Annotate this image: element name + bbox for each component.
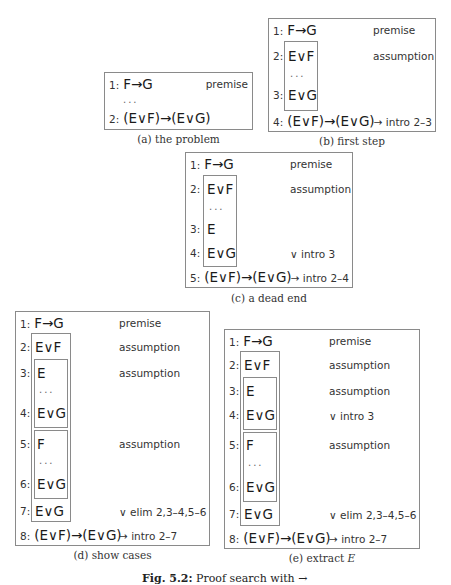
justification: premise xyxy=(290,156,332,172)
line-number: 3: xyxy=(273,89,283,101)
justification: assumption xyxy=(119,436,180,452)
proof-line: 2: xyxy=(190,181,200,197)
proof-line: 2: xyxy=(20,339,30,355)
line-number: 4: xyxy=(229,409,239,421)
line-number: 2: xyxy=(229,359,239,371)
proof-line: 6: xyxy=(229,479,239,495)
formula: E∨F xyxy=(288,48,314,64)
formula: F xyxy=(37,436,45,452)
panel-caption-c: (c) a dead end xyxy=(185,292,353,304)
proof-line: 2: (E∨F)→(E∨G) xyxy=(109,110,211,127)
justification: ∨ intro 3 xyxy=(329,408,374,424)
figure-caption: Fig. 5.2: Proof search with → xyxy=(142,572,307,585)
formula: E xyxy=(207,221,216,237)
justification: premise xyxy=(206,76,248,92)
proof-line: E∨G xyxy=(246,407,275,424)
ellipsis: ... xyxy=(39,385,55,395)
caption-prefix: (e) extract xyxy=(289,552,348,564)
proof-line: 7: xyxy=(20,503,30,519)
proof-line: E∨G xyxy=(244,506,273,523)
formula: F→G xyxy=(287,22,317,38)
formula: E∨F xyxy=(207,181,233,197)
formula: E xyxy=(246,383,255,399)
justification: assumption xyxy=(329,383,390,399)
formula: (E∨F)→(E∨G) xyxy=(123,110,210,126)
proof-panel-b: 1: F→G premise 2: E∨F assumption ... 3: … xyxy=(268,18,436,132)
ellipsis: ... xyxy=(290,69,306,79)
proof-panel-a: 1: F→G premise ... 2: (E∨F)→(E∨G) xyxy=(104,72,253,130)
ellipsis: ... xyxy=(248,458,264,468)
proof-line: E∨G xyxy=(37,405,66,422)
proof-line: 5: xyxy=(20,436,30,452)
justification: ∨ elim 2,3–4,5–6 xyxy=(329,507,416,523)
proof-line: E∨F xyxy=(35,339,61,356)
proof-line: 4: xyxy=(229,407,239,423)
proof-line: 1: F→G xyxy=(109,76,153,93)
proof-line: E xyxy=(207,221,216,238)
justification: assumption xyxy=(290,181,351,197)
justification: assumption xyxy=(373,48,434,64)
proof-line: 3: xyxy=(190,221,200,237)
formula: F xyxy=(246,437,254,453)
proof-line: 2: xyxy=(273,48,283,64)
line-number: 1: xyxy=(229,336,239,348)
line-number: 8: xyxy=(20,530,30,542)
formula: F→G xyxy=(204,156,234,172)
proof-line: E∨G xyxy=(288,87,317,104)
proof-line: 4: xyxy=(190,245,200,261)
line-number: 2: xyxy=(109,113,119,125)
panel-caption-b: (b) first step xyxy=(268,135,436,147)
line-number: 3: xyxy=(190,223,200,235)
proof-line: 3: xyxy=(20,365,30,381)
proof-line: 5: (E∨F)→(E∨G) xyxy=(190,269,292,286)
proof-line: 4: (E∨F)→(E∨G) xyxy=(273,113,375,130)
justification: → intro 2–7 xyxy=(119,528,177,544)
justification: ∨ elim 2,3–4,5–6 xyxy=(119,504,206,520)
proof-line: E∨F xyxy=(244,357,270,374)
justification: assumption xyxy=(119,365,180,381)
line-number: 4: xyxy=(20,407,30,419)
proof-line: E∨G xyxy=(207,245,236,262)
proof-panel-d: 1: F→G premise 2: E∨F assumption 3: E as… xyxy=(15,311,210,546)
line-number: 6: xyxy=(229,481,239,493)
proof-line: E∨F xyxy=(288,48,314,65)
proof-line: 8: (E∨F)→(E∨G) xyxy=(20,527,122,544)
line-number: 7: xyxy=(20,505,30,517)
proof-line: E∨G xyxy=(246,479,275,496)
line-number: 5: xyxy=(190,272,200,284)
formula: (E∨F)→(E∨G) xyxy=(204,269,291,285)
formula: E∨F xyxy=(35,339,61,355)
line-number: 7: xyxy=(229,508,239,520)
justification: ∨ intro 3 xyxy=(290,246,335,262)
proof-line: 1: F→G xyxy=(273,22,317,39)
line-number: 5: xyxy=(229,439,239,451)
formula: F→G xyxy=(123,76,153,92)
proof-line: E∨G xyxy=(35,503,64,520)
proof-line: 2: xyxy=(229,357,239,373)
line-number: 5: xyxy=(20,438,30,450)
justification: assumption xyxy=(329,437,390,453)
panel-caption-d: (d) show cases xyxy=(15,549,210,561)
justification: → intro 2–4 xyxy=(291,270,349,286)
formula: (E∨F)→(E∨G) xyxy=(34,527,121,543)
line-number: 1: xyxy=(190,159,200,171)
justification: assumption xyxy=(119,339,180,355)
panel-caption-e: (e) extract E xyxy=(224,552,420,564)
ellipsis: ... xyxy=(209,202,225,212)
line-number: 2: xyxy=(273,50,283,62)
justification: assumption xyxy=(329,357,390,373)
proof-line: E xyxy=(246,383,255,400)
justification: premise xyxy=(329,333,371,349)
formula: F→G xyxy=(243,333,273,349)
formula: E xyxy=(37,365,46,381)
proof-line: 8: (E∨F)→(E∨G) xyxy=(229,530,331,547)
line-number: 2: xyxy=(190,183,200,195)
figure-label: Fig. 5.2: xyxy=(142,572,193,585)
formula: E∨F xyxy=(244,357,270,373)
proof-line: F xyxy=(246,437,254,454)
line-number: 3: xyxy=(229,385,239,397)
line-number: 3: xyxy=(20,367,30,379)
formula: E∨G xyxy=(288,87,317,103)
formula: F→G xyxy=(34,315,64,331)
caption-variable: E xyxy=(348,552,356,564)
